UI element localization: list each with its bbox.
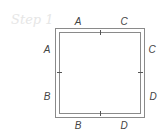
step-title: Step 1 [11, 12, 54, 28]
inner-square [59, 32, 141, 114]
tick-bottom [100, 111, 101, 116]
label-bottom-right: D [119, 121, 129, 131]
label-bottom-left: B [73, 121, 83, 131]
label-left-lower: B [42, 92, 52, 102]
label-right-lower: D [148, 92, 158, 102]
label-left-upper: A [42, 45, 52, 55]
label-top-right: C [119, 17, 129, 27]
label-right-upper: C [147, 45, 157, 55]
tick-left [57, 72, 62, 73]
label-top-left: A [73, 17, 83, 27]
tick-top [100, 30, 101, 35]
tick-right [138, 72, 143, 73]
